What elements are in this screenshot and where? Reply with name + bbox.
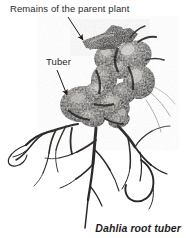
annotation-label-parent-plant: Remains of the parent plant	[10, 3, 129, 14]
tuber-photograph	[0, 0, 186, 238]
annotation-label-tuber: Tuber	[46, 56, 71, 67]
figure-dahlia-root-tuber: Remains of the parent plant Tuber Dahlia…	[0, 0, 186, 238]
figure-caption: Dahlia root tuber	[95, 222, 181, 234]
